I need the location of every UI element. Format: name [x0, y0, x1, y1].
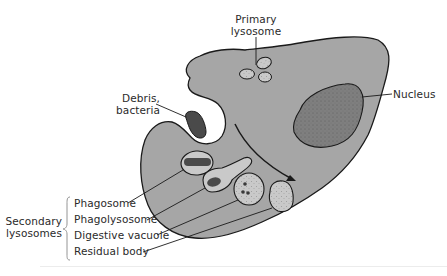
label-digestive-vacuole: Digestive vacuole: [74, 229, 169, 241]
label-line: Debris,: [110, 92, 160, 104]
vacuole-fragment: [246, 191, 250, 195]
digestive-vacuole: [234, 173, 264, 205]
label-residual-body: Residual body: [74, 245, 149, 257]
label-secondary-lysosomes: Secondary lysosomes: [4, 215, 62, 239]
label-nucleus: Nucleus: [393, 88, 436, 100]
leader-debris: [156, 104, 186, 117]
phagosome-bacterium: [184, 158, 211, 166]
vacuole-fragment: [241, 190, 245, 194]
residual-body: [269, 181, 293, 212]
label-debris-bacteria: Debris, bacteria: [110, 92, 160, 116]
lysosome-diagram: Primary lysosome Debris, bacteria Nucleu…: [0, 0, 447, 276]
vacuole-fragment: [243, 182, 247, 186]
label-phagosome: Phagosome: [74, 197, 136, 209]
primary-lysosome-2: [240, 69, 255, 79]
secondary-lysosomes-bracket: [63, 197, 70, 260]
cell-illustration: [0, 0, 447, 276]
label-line: Primary: [230, 13, 282, 25]
primary-lysosome-3: [259, 72, 272, 82]
label-line: Secondary: [4, 215, 62, 227]
label-line: lysosome: [230, 25, 282, 37]
label-primary-lysosome: Primary lysosome: [230, 13, 282, 37]
label-line: lysosomes: [4, 227, 62, 239]
divider: [40, 266, 447, 267]
label-line: bacteria: [110, 104, 160, 116]
label-phagolysosome: Phagolysosome: [74, 213, 157, 225]
